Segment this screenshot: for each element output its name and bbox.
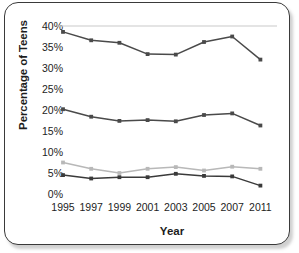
data-point-marker: [230, 165, 234, 169]
data-point-marker: [146, 167, 150, 171]
data-point-marker: [202, 169, 206, 173]
data-point-marker: [174, 119, 178, 123]
data-point-marker: [259, 167, 263, 171]
data-point-marker: [230, 175, 234, 179]
data-point-marker: [118, 171, 122, 175]
series-series-2: [61, 107, 262, 127]
series-series-1: [61, 30, 262, 62]
data-point-marker: [146, 118, 150, 122]
data-point-marker: [61, 30, 65, 34]
data-point-marker: [61, 161, 65, 165]
data-point-marker: [61, 107, 65, 111]
data-point-marker: [259, 184, 263, 188]
data-point-marker: [230, 35, 234, 39]
data-point-marker: [118, 175, 122, 179]
series-series-3: [61, 161, 262, 175]
data-point-marker: [174, 53, 178, 57]
data-point-marker: [202, 40, 206, 44]
plot-area: [5, 3, 291, 246]
data-point-marker: [174, 165, 178, 169]
series-series-4: [61, 172, 262, 188]
data-point-marker: [61, 173, 65, 177]
data-point-marker: [118, 41, 122, 45]
data-point-marker: [146, 52, 150, 56]
data-point-marker: [89, 177, 93, 181]
data-point-marker: [202, 113, 206, 117]
line-chart-svg: [5, 3, 291, 246]
data-point-marker: [230, 112, 234, 116]
data-point-marker: [174, 172, 178, 176]
data-point-marker: [89, 167, 93, 171]
chart-frame: Percentage of Teens Year 40%35%30%25%20%…: [4, 2, 290, 245]
data-point-marker: [259, 58, 263, 62]
data-point-marker: [202, 174, 206, 178]
data-point-marker: [89, 38, 93, 42]
data-point-marker: [146, 175, 150, 179]
data-point-marker: [118, 119, 122, 123]
data-point-marker: [259, 124, 263, 128]
data-point-marker: [89, 115, 93, 119]
